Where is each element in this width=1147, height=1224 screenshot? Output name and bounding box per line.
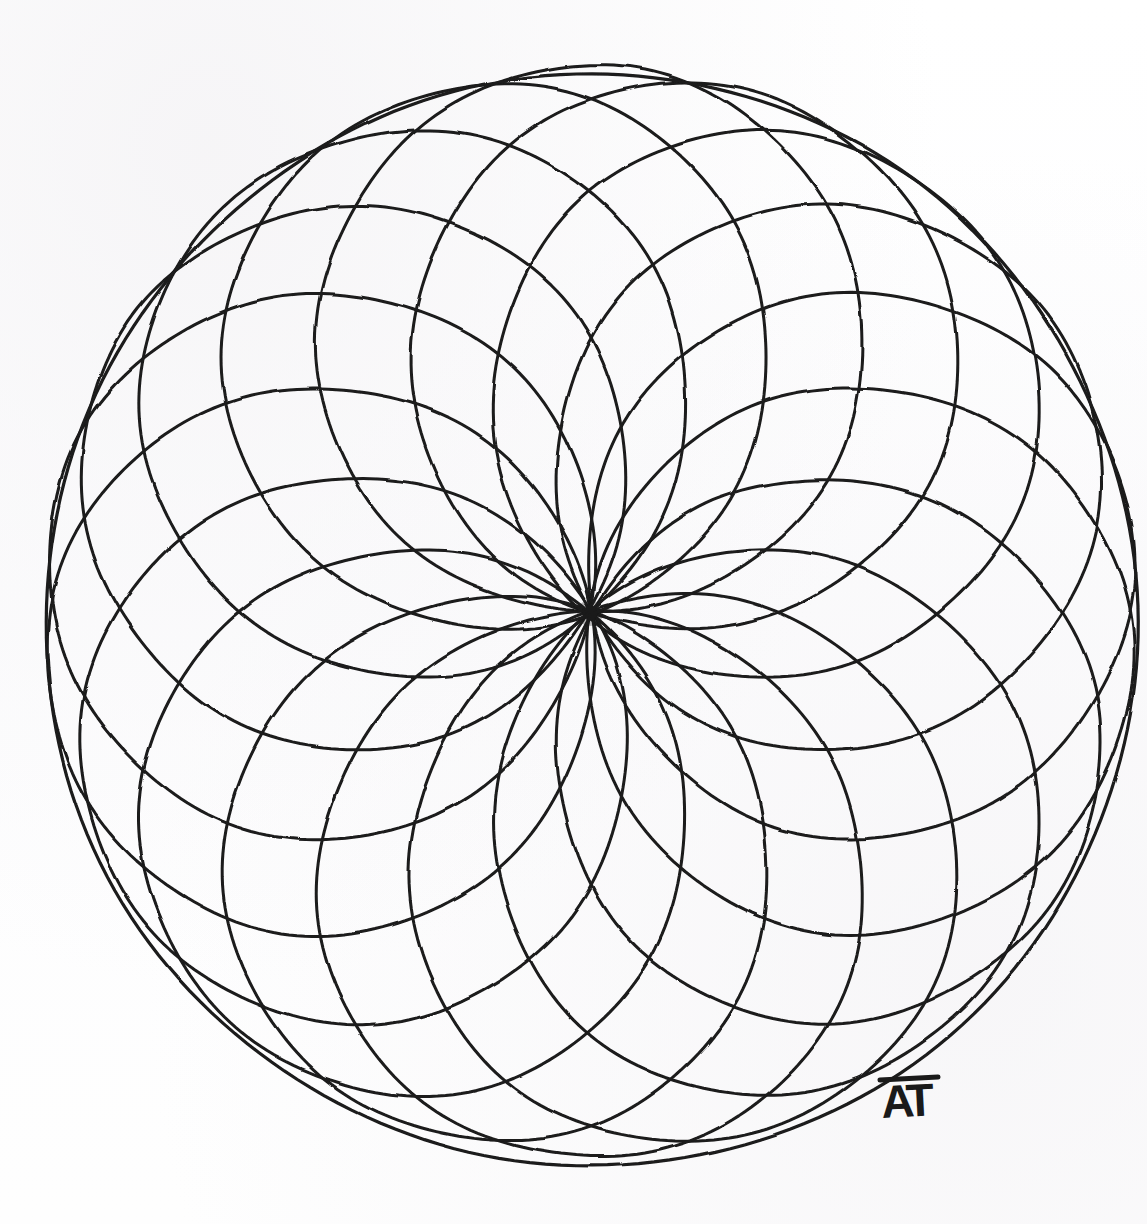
artwork-page: AT <box>0 0 1147 1224</box>
mandala-circle-11 <box>222 595 767 1140</box>
signature-crossbar <box>880 1077 938 1080</box>
mandala-circle-18 <box>221 84 766 630</box>
mandala-circle-9 <box>409 593 957 1141</box>
center-convergence-point <box>577 600 603 626</box>
mandala-circle-13 <box>80 479 628 1026</box>
mandala-drawing: AT <box>0 0 1147 1224</box>
mandala-circle-1 <box>315 65 862 612</box>
artist-signature: AT <box>880 1073 938 1128</box>
center-blot-halo <box>577 600 603 626</box>
